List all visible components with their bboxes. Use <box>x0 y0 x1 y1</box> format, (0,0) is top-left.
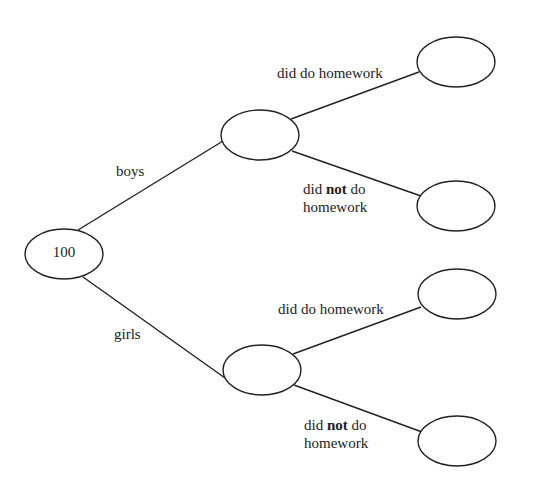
label-boys-did-not-homework-line2: homework <box>303 198 367 216</box>
label-text: do <box>348 417 367 433</box>
label-boys-did-not-homework: did not do <box>303 180 366 198</box>
label-girls-did-not-homework-line2: homework <box>304 434 368 452</box>
label-text: do <box>347 181 366 197</box>
label-text: did <box>303 181 326 197</box>
label-girls-did-not-homework: did not do <box>304 416 367 434</box>
label-emphasis-not: not <box>327 417 348 433</box>
label-emphasis-not: not <box>326 181 347 197</box>
girls-did-node <box>418 269 496 319</box>
label-girls-did-homework: did do homework <box>278 300 384 318</box>
girls-didnot-node <box>418 416 496 466</box>
branch-label-girls: girls <box>114 325 141 343</box>
boys-didnot-node <box>417 181 495 231</box>
boys-did-node <box>417 37 495 87</box>
root-node-value: 100 <box>25 244 103 261</box>
branch-label-boys: boys <box>116 162 144 180</box>
label-boys-did-homework: did do homework <box>277 64 383 82</box>
girls-node <box>223 345 301 395</box>
label-text: did <box>304 417 327 433</box>
boys-node <box>221 110 299 160</box>
tree-diagram <box>0 0 543 482</box>
edge-root-girls <box>83 277 225 378</box>
edge-root-boys <box>78 141 223 230</box>
